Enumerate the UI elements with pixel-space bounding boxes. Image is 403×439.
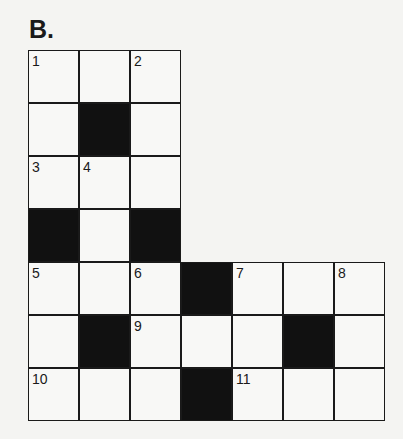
crossword-cell[interactable] bbox=[28, 103, 79, 156]
puzzle-label: B. bbox=[29, 17, 54, 42]
crossword-cell[interactable] bbox=[79, 50, 130, 103]
crossword-cell[interactable]: 6 bbox=[130, 262, 181, 315]
black-square bbox=[283, 315, 334, 368]
crossword-cell[interactable] bbox=[181, 315, 232, 368]
crossword-cell[interactable]: 4 bbox=[79, 156, 130, 209]
clue-number: 10 bbox=[32, 372, 48, 386]
crossword-cell[interactable]: 11 bbox=[232, 368, 283, 421]
crossword-cell[interactable] bbox=[79, 209, 130, 262]
crossword-cell[interactable] bbox=[283, 368, 334, 421]
clue-number: 2 bbox=[134, 54, 142, 68]
black-square bbox=[181, 262, 232, 315]
crossword-cell[interactable] bbox=[334, 315, 385, 368]
crossword-cell[interactable]: 10 bbox=[28, 368, 79, 421]
crossword-cell[interactable] bbox=[130, 368, 181, 421]
black-square bbox=[79, 315, 130, 368]
clue-number: 9 bbox=[134, 319, 142, 333]
crossword-cell[interactable] bbox=[79, 262, 130, 315]
crossword-cell[interactable]: 8 bbox=[334, 262, 385, 315]
clue-number: 6 bbox=[134, 266, 142, 280]
crossword-cell[interactable]: 9 bbox=[130, 315, 181, 368]
crossword-cell[interactable] bbox=[130, 156, 181, 209]
clue-number: 3 bbox=[32, 160, 40, 174]
clue-number: 11 bbox=[236, 372, 251, 386]
crossword-cell[interactable] bbox=[28, 315, 79, 368]
crossword-cell[interactable] bbox=[79, 368, 130, 421]
black-square bbox=[79, 103, 130, 156]
crossword-cell[interactable]: 5 bbox=[28, 262, 79, 315]
crossword-cell[interactable] bbox=[283, 262, 334, 315]
black-square bbox=[28, 209, 79, 262]
clue-number: 5 bbox=[32, 266, 40, 280]
clue-number: 1 bbox=[32, 54, 40, 68]
clue-number: 4 bbox=[83, 160, 91, 174]
crossword-cell[interactable] bbox=[130, 103, 181, 156]
black-square bbox=[181, 368, 232, 421]
clue-number: 7 bbox=[236, 266, 244, 280]
black-square bbox=[130, 209, 181, 262]
crossword-cell[interactable]: 7 bbox=[232, 262, 283, 315]
crossword-cell[interactable] bbox=[232, 315, 283, 368]
crossword-cell[interactable]: 3 bbox=[28, 156, 79, 209]
crossword-cell[interactable]: 2 bbox=[130, 50, 181, 103]
crossword-cell[interactable]: 1 bbox=[28, 50, 79, 103]
crossword-cell[interactable] bbox=[334, 368, 385, 421]
clue-number: 8 bbox=[338, 266, 346, 280]
